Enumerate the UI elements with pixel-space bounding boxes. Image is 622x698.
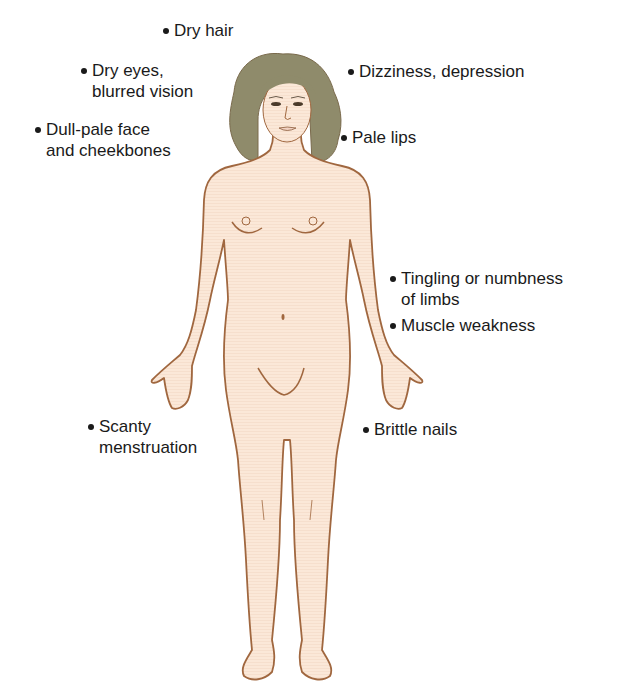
navel bbox=[282, 314, 285, 320]
bullet-icon bbox=[88, 424, 94, 430]
left-eye bbox=[271, 102, 281, 106]
bullet-icon bbox=[81, 68, 87, 74]
label-muscle-weakness: Muscle weakness bbox=[401, 315, 535, 336]
label-dry-eyes: Dry eyes, blurred vision bbox=[92, 60, 193, 102]
label-dizziness: Dizziness, depression bbox=[359, 61, 524, 82]
female-body-illustration bbox=[0, 0, 622, 698]
bullet-icon bbox=[163, 28, 169, 34]
bullet-icon bbox=[390, 323, 396, 329]
right-eye bbox=[293, 102, 303, 106]
bullet-icon bbox=[348, 69, 354, 75]
bullet-icon bbox=[363, 427, 369, 433]
symptom-body-diagram: Dry hair Dry eyes, blurred vision Dull-p… bbox=[0, 0, 622, 698]
label-pale-lips: Pale lips bbox=[352, 127, 416, 148]
label-dull-pale-face: Dull-pale face and cheekbones bbox=[46, 119, 171, 161]
label-tingling: Tingling or numbness of limbs bbox=[401, 268, 563, 310]
label-scanty-menstruation: Scanty menstruation bbox=[99, 416, 197, 458]
label-dry-hair: Dry hair bbox=[174, 20, 234, 41]
bullet-icon bbox=[35, 127, 41, 133]
bullet-icon bbox=[390, 276, 396, 282]
label-brittle-nails: Brittle nails bbox=[374, 419, 457, 440]
bullet-icon bbox=[341, 135, 347, 141]
body-outline bbox=[152, 124, 423, 679]
